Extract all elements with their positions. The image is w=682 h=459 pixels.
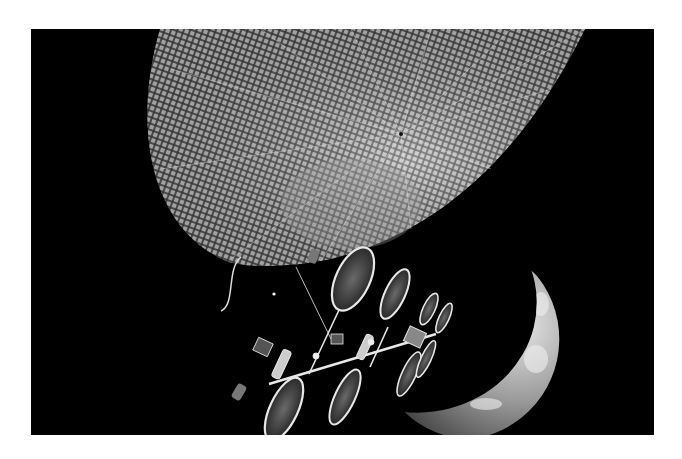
star bbox=[272, 292, 275, 295]
solar-panel bbox=[257, 372, 311, 435]
solar-panel bbox=[375, 265, 416, 322]
space-scene bbox=[31, 29, 654, 435]
solar-panel bbox=[323, 366, 366, 429]
space-art-image bbox=[31, 29, 654, 435]
space-station bbox=[231, 241, 456, 435]
